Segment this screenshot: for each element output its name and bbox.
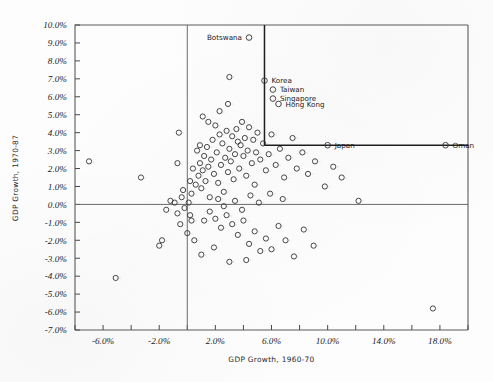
data-point-micro-label: ··	[241, 233, 243, 237]
data-point-micro-label: ··	[212, 165, 214, 169]
scatter-plot-svg: 10.0%9.0%8.0%7.0%6.0%5.0%4.0%3.0%2.0%1.0…	[0, 0, 493, 382]
data-point	[210, 137, 215, 142]
data-point	[216, 180, 221, 185]
data-point	[138, 175, 143, 180]
y-tick-label: -2.0%	[45, 236, 68, 246]
data-point	[234, 126, 239, 131]
y-tick-label: 1.0%	[48, 182, 67, 192]
data-point	[227, 146, 232, 151]
data-point-micro-label: ··	[337, 165, 339, 169]
data-point	[331, 164, 336, 169]
data-point-micro-label: ··	[191, 232, 193, 236]
data-point	[239, 119, 244, 124]
data-point-micro-label: ··	[345, 176, 347, 180]
data-point-micro-label: ··	[233, 260, 235, 264]
data-point-micro-label: ··	[226, 142, 228, 146]
x-tick-label: -2.0%	[148, 336, 171, 346]
x-tick-label: 10.0%	[316, 336, 340, 346]
data-point-label: Botswana	[207, 33, 242, 42]
data-point-micro-label: ··	[264, 158, 266, 162]
data-point	[276, 223, 281, 228]
data-point-micro-label: ··	[272, 153, 274, 157]
data-point-micro-label: ··	[210, 145, 212, 149]
x-tick-label: -6.0%	[92, 336, 115, 346]
data-point-micro-label: ··	[261, 131, 263, 135]
data-point	[280, 196, 285, 201]
chart-stage: 10.0%9.0%8.0%7.0%6.0%5.0%4.0%3.0%2.0%1.0…	[0, 0, 493, 382]
data-point	[189, 191, 194, 196]
data-point-micro-label: ··	[231, 102, 233, 106]
data-point	[216, 196, 221, 201]
data-point	[248, 193, 253, 198]
data-point	[251, 137, 256, 142]
data-point-labeled	[246, 35, 252, 41]
data-point	[244, 257, 249, 262]
data-point	[232, 198, 237, 203]
data-point-micro-label: ··	[275, 248, 277, 252]
data-point-micro-label: ··	[292, 156, 294, 160]
data-point	[242, 135, 247, 140]
data-point-micro-label: ··	[213, 210, 215, 214]
data-point	[239, 207, 244, 212]
data-point-micro-label: ··	[233, 147, 235, 151]
data-point	[214, 150, 219, 155]
data-point	[187, 178, 192, 183]
data-point	[230, 134, 235, 139]
data-point	[246, 125, 251, 130]
data-point	[189, 218, 194, 223]
data-point-micro-label: ··	[209, 179, 211, 183]
data-point	[195, 148, 200, 153]
data-point-micro-label: ··	[205, 187, 207, 191]
data-point-micro-label: ··	[243, 167, 245, 171]
y-tick-label: 0.0%	[48, 200, 67, 210]
data-point	[263, 168, 268, 173]
y-tick-label: 10.0%	[43, 20, 67, 30]
data-point-micro-label: ··	[311, 172, 313, 176]
data-point-micro-label: ··	[318, 160, 320, 164]
x-tick-label: 2.0%	[206, 336, 225, 346]
data-point-micro-label: ··	[178, 201, 180, 205]
data-point	[312, 159, 317, 164]
y-tick-label: -4.0%	[45, 271, 68, 281]
data-point	[190, 166, 195, 171]
data-point-micro-label: ··	[217, 172, 219, 176]
data-point	[237, 166, 242, 171]
data-point	[179, 195, 184, 200]
data-point	[86, 159, 91, 164]
data-point-micro-label: ··	[195, 219, 197, 223]
data-point-label: Japan	[334, 141, 355, 150]
data-point-label: Oman	[453, 141, 475, 150]
data-point	[430, 306, 435, 311]
data-point	[202, 218, 207, 223]
data-point	[230, 222, 235, 227]
data-point-micro-label: ··	[219, 124, 221, 128]
data-point-labeled	[270, 96, 276, 102]
data-point-micro-label: ··	[220, 151, 222, 155]
data-point	[197, 143, 202, 148]
data-point-micro-label: ··	[255, 162, 257, 166]
y-tick-label: 9.0%	[48, 38, 67, 48]
y-tick-label: -7.0%	[45, 325, 68, 335]
data-point-micro-label: ··	[289, 239, 291, 243]
data-point	[218, 162, 223, 167]
data-point-micro-label: ··	[258, 183, 260, 187]
data-point	[207, 209, 212, 214]
data-point-micro-label: ··	[234, 160, 236, 164]
data-point-micro-label: ··	[203, 162, 205, 166]
data-point	[286, 155, 291, 160]
data-point-micro-label: ··	[119, 276, 121, 280]
data-point	[157, 243, 162, 248]
data-point-micro-label: ··	[258, 230, 260, 234]
data-point-micro-label: ··	[257, 138, 259, 142]
y-axis-title: GDP Growth, 1970-87	[11, 135, 20, 221]
data-point	[220, 141, 225, 146]
data-point-micro-label: ··	[193, 179, 195, 183]
data-point	[225, 170, 230, 175]
data-point	[245, 148, 250, 153]
data-point-micro-label: ··	[288, 176, 290, 180]
data-point	[258, 248, 263, 253]
data-point	[244, 173, 249, 178]
y-tick-label: 6.0%	[48, 92, 67, 102]
data-point-micro-label: ··	[237, 178, 239, 182]
data-point-micro-label: ··	[259, 151, 261, 155]
